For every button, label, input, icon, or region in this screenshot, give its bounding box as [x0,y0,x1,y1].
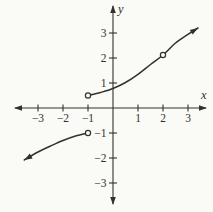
y-tick-label: 2 [101,52,107,64]
curve-left-branch-arrow [24,154,32,160]
y-axis-top-arrow [110,5,116,13]
x-axis-left-arrow [14,105,22,111]
piecewise-function-graph: −3−2−1123321−1−2−3 y x [0,0,213,212]
curve-left-branch [24,133,88,160]
y-tick-label: 1 [101,77,107,89]
curves-layer [24,28,198,160]
x-axis-right-arrow [199,105,207,111]
plot-canvas: −3−2−1123321−1−2−3 y x [0,0,213,212]
y-tick-label: −2 [94,152,106,164]
y-axis-label: y [116,2,124,16]
axes-layer: −3−2−1123321−1−2−3 [14,5,207,205]
x-tick-label: −2 [57,112,69,124]
open-point [85,93,90,98]
x-tick-label: −3 [32,112,44,124]
x-tick-label: 1 [135,112,141,124]
x-tick-label: 3 [185,112,191,124]
open-point [85,130,90,135]
y-tick-label: −1 [94,127,106,139]
curve-right-branch-arrow [190,28,198,35]
open-point [160,52,165,57]
x-tick-label: 2 [160,112,166,124]
y-axis-bottom-arrow [110,197,116,205]
y-tick-label: 3 [101,27,107,39]
y-tick-label: −3 [94,177,106,189]
x-axis-label: x [200,88,207,102]
x-tick-label: −1 [82,112,94,124]
